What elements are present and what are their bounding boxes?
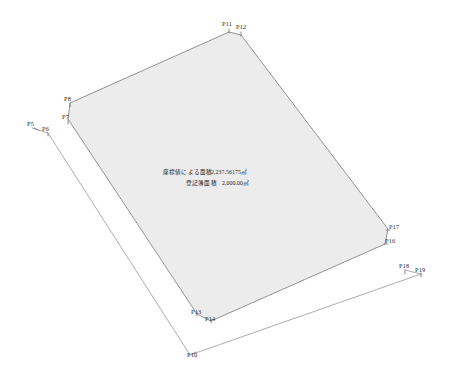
parcel-group <box>68 32 388 321</box>
registry-area-value: 2,000.00㎡ <box>222 179 249 186</box>
registry-area-label: 登記簿面積 <box>186 179 217 187</box>
point-label-p12[interactable]: P12 <box>236 23 246 30</box>
main-parcel-polygon[interactable] <box>68 32 388 321</box>
point-label-p7[interactable]: P7 <box>62 113 70 120</box>
point-label-p10[interactable]: P10 <box>187 351 197 358</box>
point-label-p8[interactable]: P8 <box>64 95 71 102</box>
point-label-p13[interactable]: P13 <box>191 308 201 315</box>
point-label-p16[interactable]: P16 <box>385 237 395 244</box>
point-label-p11[interactable]: P11 <box>222 20 232 27</box>
point-label-p17[interactable]: P17 <box>389 223 400 230</box>
coordinate-area-label: 座標値による面積 <box>163 168 212 176</box>
point-label-p18[interactable]: P18 <box>399 262 409 269</box>
point-label-p14[interactable]: P14 <box>205 315 216 322</box>
point-label-p19[interactable]: P19 <box>415 266 425 273</box>
point-label-p6[interactable]: P6 <box>42 125 49 132</box>
land-survey-drawing: P5P6P7P8P10P11P12P13P14P16P17P18P19 座標値に… <box>0 0 451 383</box>
point-label-p5[interactable]: P5 <box>27 120 34 127</box>
coordinate-area-value: 2,237.56175㎡ <box>211 168 247 175</box>
